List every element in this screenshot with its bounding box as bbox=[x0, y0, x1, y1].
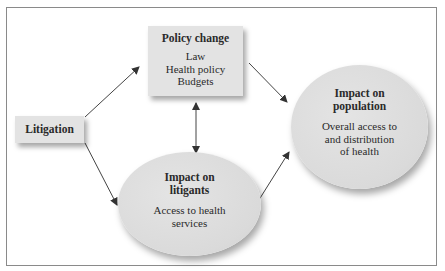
population-title-line-1: Impact on bbox=[291, 87, 428, 100]
population-body-line-1: Overall access to bbox=[291, 120, 428, 133]
litigants-body: Access to health services bbox=[118, 204, 261, 229]
population-body-line-3: of health bbox=[291, 145, 428, 158]
population-body-line-2: and distribution bbox=[291, 133, 428, 146]
node-litigation: Litigation bbox=[15, 116, 84, 143]
litigants-title: Impact on litigants bbox=[118, 171, 261, 197]
litigants-title-line-1: Impact on bbox=[118, 171, 261, 184]
arrow-litigation-to-litigants bbox=[85, 143, 117, 205]
policy-change-title: Policy change bbox=[148, 32, 243, 45]
node-impact-on-population: Impact on population Overall access to a… bbox=[291, 65, 428, 189]
node-impact-on-litigants: Impact on litigants Access to health ser… bbox=[118, 152, 261, 256]
arrow-litigation-to-policy bbox=[85, 67, 139, 117]
population-title: Impact on population bbox=[291, 87, 428, 113]
litigants-title-line-2: litigants bbox=[118, 184, 261, 197]
node-policy-change: Policy change Law Health policy Budgets bbox=[148, 26, 243, 96]
policy-change-items: Law Health policy Budgets bbox=[148, 50, 243, 88]
population-title-line-2: population bbox=[291, 100, 428, 113]
arrow-policy-to-population bbox=[249, 63, 287, 102]
litigation-title: Litigation bbox=[15, 116, 84, 143]
litigants-body-line-2: services bbox=[118, 217, 261, 230]
arrow-litigants-to-population bbox=[257, 152, 289, 203]
litigants-body-line-1: Access to health bbox=[118, 204, 261, 217]
policy-item-health-policy: Health policy bbox=[148, 63, 243, 76]
policy-item-budgets: Budgets bbox=[148, 75, 243, 88]
population-body: Overall access to and distribution of he… bbox=[291, 120, 428, 158]
policy-item-law: Law bbox=[148, 50, 243, 63]
